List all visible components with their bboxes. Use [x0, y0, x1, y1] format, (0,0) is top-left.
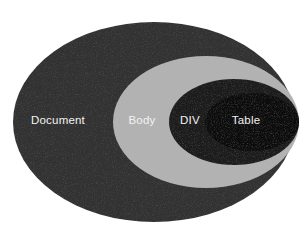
ellipse-label-table: Table — [232, 114, 261, 126]
ellipse-label-document: Document — [31, 114, 86, 126]
diagram-canvas: Document Body DIV Table — [0, 0, 307, 232]
ellipse-label-body: Body — [128, 114, 155, 126]
nested-ellipse-diagram: Document Body DIV Table — [0, 0, 307, 232]
ellipse-label-div: DIV — [180, 114, 200, 126]
